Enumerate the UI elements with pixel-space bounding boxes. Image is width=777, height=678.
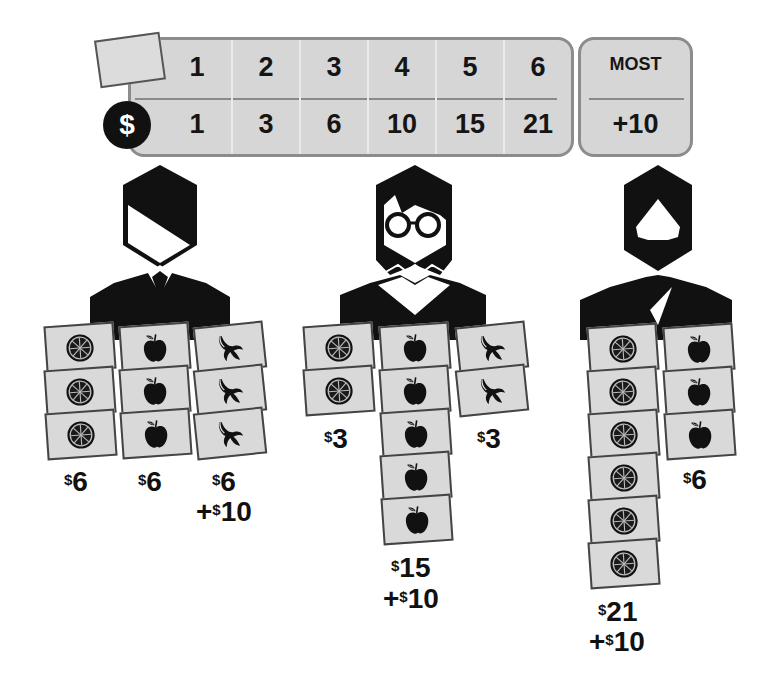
orange-icon bbox=[63, 374, 97, 408]
most-bonus-box: MOST +10 bbox=[578, 37, 693, 157]
banana-icon bbox=[474, 330, 509, 365]
apple-icon bbox=[682, 374, 716, 408]
apple-icon bbox=[139, 416, 173, 450]
apple-icon bbox=[400, 502, 434, 536]
orange-icon bbox=[606, 374, 640, 408]
value-cell: 3 bbox=[233, 109, 299, 140]
apple-icon bbox=[682, 331, 716, 365]
player-3-apple-amount: $6 bbox=[683, 465, 707, 495]
player-2-apple-amount: $15 bbox=[391, 553, 431, 583]
apple-icon bbox=[138, 330, 172, 364]
orange-icon bbox=[322, 330, 356, 364]
orange-icon bbox=[607, 503, 641, 537]
apple-card bbox=[663, 409, 736, 461]
value-cell: 10 bbox=[369, 109, 435, 140]
count-cell: 5 bbox=[437, 52, 503, 83]
banana-icon bbox=[212, 373, 247, 408]
score-col-1: 1 1 bbox=[163, 40, 231, 154]
player-1-most-bonus: +$10 bbox=[196, 497, 252, 527]
player-2-banana-amount: $3 bbox=[477, 424, 501, 454]
player-2-orange-amount: $3 bbox=[324, 424, 348, 454]
orange-icon bbox=[606, 331, 640, 365]
orange-icon bbox=[322, 373, 356, 407]
count-cell: 1 bbox=[163, 52, 231, 83]
score-col-3: 3 6 bbox=[299, 40, 367, 154]
apple-icon bbox=[138, 373, 172, 407]
count-cell: 4 bbox=[369, 52, 435, 83]
orange-card bbox=[302, 365, 375, 417]
value-cell: 15 bbox=[437, 109, 503, 140]
glasses-person-figure-icon bbox=[340, 165, 490, 340]
player-3-orange-amount: $21 bbox=[598, 597, 638, 627]
most-label: MOST bbox=[581, 54, 690, 75]
count-cell: 2 bbox=[233, 52, 299, 83]
apple-icon bbox=[399, 459, 433, 493]
score-col-2: 2 3 bbox=[231, 40, 299, 154]
score-table: 1 1 2 3 3 6 4 10 5 15 6 21 bbox=[128, 37, 574, 157]
banana-icon bbox=[474, 373, 509, 408]
orange-icon bbox=[64, 417, 98, 451]
apple-card bbox=[380, 494, 453, 546]
apple-icon bbox=[683, 417, 717, 451]
apple-card bbox=[119, 408, 192, 460]
orange-icon bbox=[63, 330, 97, 364]
banana-card bbox=[193, 406, 268, 460]
banana-icon bbox=[212, 416, 247, 451]
banana-card bbox=[455, 363, 530, 417]
player-1-orange-amount: $6 bbox=[64, 467, 88, 497]
orange-icon bbox=[607, 546, 641, 580]
count-cell: 3 bbox=[301, 52, 367, 83]
player-1-apple-amount: $6 bbox=[138, 467, 162, 497]
player-1-banana-amount: $6 bbox=[212, 467, 236, 497]
value-cell: 6 bbox=[301, 109, 367, 140]
dollar-icon: $ bbox=[103, 101, 151, 149]
score-col-4: 4 10 bbox=[367, 40, 435, 154]
businessman-figure-icon bbox=[90, 165, 240, 340]
banana-icon bbox=[212, 330, 247, 365]
orange-icon bbox=[607, 417, 641, 451]
apple-icon bbox=[399, 416, 433, 450]
card-count-icon bbox=[94, 32, 166, 89]
apple-icon bbox=[398, 330, 432, 364]
apple-icon bbox=[398, 373, 432, 407]
orange-card bbox=[44, 409, 117, 461]
most-divider bbox=[589, 98, 684, 100]
count-cell: 6 bbox=[505, 52, 571, 83]
score-col-6: 6 21 bbox=[503, 40, 571, 154]
value-cell: 1 bbox=[163, 109, 231, 140]
value-cell: 21 bbox=[505, 109, 571, 140]
most-bonus-value: +10 bbox=[581, 109, 690, 140]
score-col-5: 5 15 bbox=[435, 40, 503, 154]
bearded-man-figure-icon bbox=[580, 165, 740, 340]
orange-icon bbox=[607, 460, 641, 494]
player-3-most-bonus: +$10 bbox=[589, 627, 645, 657]
orange-card bbox=[587, 538, 660, 590]
player-2-most-bonus: +$10 bbox=[383, 584, 439, 614]
